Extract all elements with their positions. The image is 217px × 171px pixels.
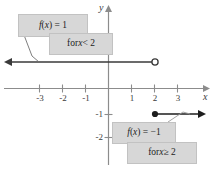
branch-upper-arrowhead: [4, 58, 12, 66]
piecewise-function-graph: -3 -2 -1 1 2 3 2 -1 -2 y x f(x) = 1 for …: [0, 0, 217, 171]
x-tick-label-3: 3: [170, 93, 186, 103]
x-tick-label-2: 2: [147, 93, 163, 103]
callout-upper-condition: for x < 2: [49, 33, 113, 55]
branch-lower-arrowhead: [198, 110, 206, 118]
x-tick-label-1: 1: [124, 93, 140, 103]
leader-line-upper: [24, 35, 39, 62]
x-tick-label-neg1: -1: [77, 93, 95, 103]
closed-endpoint-marker: [152, 111, 158, 117]
open-endpoint-marker: [152, 59, 158, 65]
x-axis-label: x: [203, 91, 207, 102]
y-axis-arrowhead: [105, 5, 112, 12]
y-tick-label-neg2: -2: [87, 132, 103, 142]
callout-lower-condition: for x ≥ 2: [127, 142, 197, 164]
y-axis-label: y: [99, 2, 103, 13]
callout-lower-value: f(x) = −1: [112, 122, 176, 144]
y-tick-label-neg1: -1: [87, 109, 103, 119]
x-tick-label-neg2: -2: [54, 93, 72, 103]
x-tick-label-neg3: -3: [31, 93, 49, 103]
